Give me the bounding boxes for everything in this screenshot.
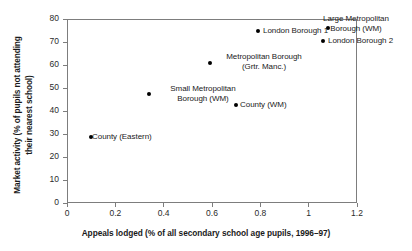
y-axis-tick — [63, 42, 67, 43]
y-axis-tick — [63, 111, 67, 112]
plot-area — [67, 19, 357, 203]
x-axis-tick — [115, 203, 116, 207]
data-point-label: Large MetropolitanBorough (WM) — [306, 14, 406, 34]
y-axis-tick-label: 0 — [19, 198, 59, 207]
data-point-label: Small MetropolitanBorough (WM) — [153, 84, 253, 104]
y-axis-tick — [63, 19, 67, 20]
x-axis-tick-label: 0.6 — [192, 209, 232, 218]
data-point-label-line1: Metropolitan Borough — [214, 52, 314, 62]
x-axis-tick-label: 0 — [47, 209, 87, 218]
data-point-label-line2: Borough (WM) — [153, 94, 253, 104]
data-point-label-line1: Large Metropolitan — [306, 14, 406, 24]
x-axis-tick — [212, 203, 213, 207]
x-axis-tick — [357, 203, 358, 207]
y-axis-tick — [63, 65, 67, 66]
x-axis-tick-label: 1 — [289, 209, 329, 218]
y-axis-tick-label: 70 — [19, 37, 59, 46]
x-axis-tick-label: 0.8 — [240, 209, 280, 218]
data-point-label-line2: Borough (WM) — [306, 24, 406, 34]
x-axis-tick — [260, 203, 261, 207]
data-point-label: County (WM) — [240, 100, 320, 110]
data-point-marker — [256, 29, 260, 33]
y-axis-tick — [63, 88, 67, 89]
y-axis-tick-label: 20 — [19, 152, 59, 161]
y-axis-tick — [63, 180, 67, 181]
y-axis-tick — [63, 157, 67, 158]
data-point-label-line1: London Borough 2 — [328, 36, 412, 46]
x-axis-tick — [67, 203, 68, 207]
y-axis-tick-label: 30 — [19, 129, 59, 138]
y-axis-tick — [63, 134, 67, 135]
data-point-label-line1: Small Metropolitan — [153, 84, 253, 94]
x-axis-tick — [163, 203, 164, 207]
data-point-label: Metropolitan Borough(Grtr. Manc.) — [214, 52, 314, 72]
data-point-marker — [208, 61, 212, 65]
data-point-label-line1: County (WM) — [240, 100, 320, 110]
x-axis-tick-label: 0.2 — [95, 209, 135, 218]
x-axis-tick-label: 1.2 — [337, 209, 377, 218]
y-axis-tick-label: 40 — [19, 106, 59, 115]
data-point-label: London Borough 2 — [328, 36, 412, 46]
data-point-label-line1: County (Eastern) — [92, 132, 182, 142]
y-axis-tick-label: 10 — [19, 175, 59, 184]
scatter-chart: Market activity (% of pupils not attendi… — [0, 0, 412, 251]
x-axis-tick — [308, 203, 309, 207]
x-axis-tick-label: 0.4 — [144, 209, 184, 218]
y-axis-tick-label: 60 — [19, 60, 59, 69]
data-point-label-line2: (Grtr. Manc.) — [214, 62, 314, 72]
x-axis-title: Appeals lodged (% of all secondary schoo… — [0, 228, 412, 238]
data-point-label: County (Eastern) — [92, 132, 182, 142]
y-axis-tick-label: 80 — [19, 14, 59, 23]
y-axis-tick-label: 50 — [19, 83, 59, 92]
